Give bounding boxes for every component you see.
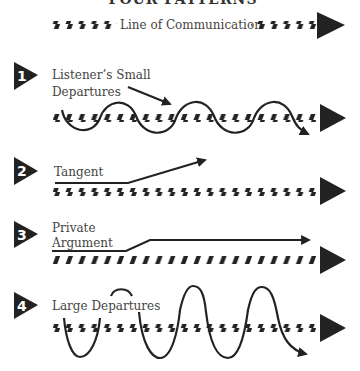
pattern-number: 3 <box>17 227 27 243</box>
arrowhead-icon <box>320 177 346 205</box>
pattern-label: Tangent <box>54 165 103 179</box>
communication-patterns-diagram: FOUR PATTERNS Line of Communication 1 Li… <box>0 0 360 371</box>
dashed-line <box>53 256 321 264</box>
wavy-path-segment <box>64 318 100 357</box>
legend-line-of-communication: Line of Communication <box>49 12 345 39</box>
pattern-label: Large Departures <box>52 299 160 313</box>
pattern-label-line-2: Departures <box>52 85 121 99</box>
arrowhead-icon <box>320 314 346 342</box>
pattern-number: 1 <box>17 68 27 84</box>
pattern-2-tangent: 2 Tangent <box>14 157 346 205</box>
pattern-3-private-argument: 3 Private Argument <box>14 221 346 274</box>
arrowhead-icon <box>317 12 345 39</box>
dashed-line <box>53 114 321 122</box>
pattern-number: 4 <box>17 298 27 314</box>
pattern-1-small-departures: 1 Listener’s Small Departures <box>14 62 346 134</box>
pattern-label-line-1: Listener’s Small <box>52 68 151 82</box>
pattern-label-line-2: Argument <box>51 236 113 250</box>
title: FOUR PATTERNS <box>108 0 257 7</box>
legend-label: Line of Communication <box>120 18 262 32</box>
dashed-line <box>49 21 117 29</box>
wavy-path <box>139 286 306 358</box>
wave-peak-behind-label <box>111 289 132 296</box>
arrowhead-icon <box>320 246 346 274</box>
pointer-arrow-icon <box>128 87 170 104</box>
dashed-line <box>251 21 319 29</box>
pattern-label-line-1: Private <box>52 221 96 235</box>
pattern-4-large-departures: 4 Large Departures <box>14 286 346 358</box>
pattern-number: 2 <box>17 163 27 179</box>
dashed-line <box>53 188 321 196</box>
arrowhead-icon <box>320 104 346 132</box>
